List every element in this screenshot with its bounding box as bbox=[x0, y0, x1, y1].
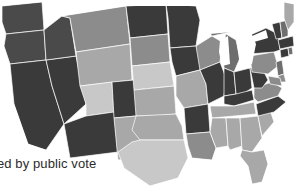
map-caption: ed by public vote bbox=[0, 157, 96, 170]
state-kansas bbox=[134, 86, 176, 116]
state-washington bbox=[2, 2, 44, 34]
state-alabama bbox=[226, 118, 242, 150]
state-arkansas bbox=[184, 104, 210, 134]
state-south-dakota bbox=[130, 34, 170, 66]
state-nebraska bbox=[132, 62, 174, 90]
state-rhode-island bbox=[288, 47, 293, 55]
state-oregon bbox=[4, 30, 46, 64]
state-oklahoma bbox=[132, 114, 184, 140]
state-minnesota bbox=[166, 4, 200, 48]
state-connecticut bbox=[280, 48, 289, 58]
state-north-dakota bbox=[126, 4, 168, 38]
